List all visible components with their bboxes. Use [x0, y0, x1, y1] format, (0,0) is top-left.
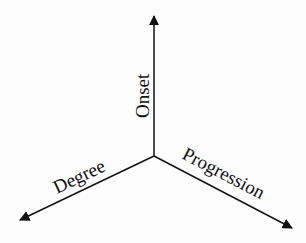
onset-label: Onset — [132, 73, 153, 118]
diagram-svg: Onset Degree Progression — [0, 0, 306, 243]
progression-label: Progression — [179, 143, 269, 203]
three-axis-diagram: Onset Degree Progression — [0, 0, 306, 243]
